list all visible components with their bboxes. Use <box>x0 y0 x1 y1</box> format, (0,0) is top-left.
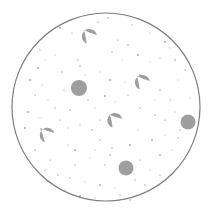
speckle-dot <box>144 184 146 186</box>
speckle-dot <box>74 149 76 151</box>
speckle-dot <box>121 59 122 60</box>
speckle-dot <box>69 109 71 111</box>
speckle-dot <box>189 97 190 98</box>
speckle-dot <box>154 99 155 100</box>
speckle-dot <box>139 159 140 160</box>
speckle-dot <box>179 129 180 130</box>
speckle-dot <box>34 94 35 95</box>
speckle-dot <box>24 127 26 129</box>
speckle-dot <box>177 137 178 138</box>
speckle-dot <box>174 59 176 61</box>
round-particle <box>119 161 134 176</box>
speckle-dot <box>57 174 59 176</box>
speckle-dot <box>84 181 85 182</box>
speckle-dot <box>109 79 111 81</box>
speckle-dot <box>114 101 115 102</box>
speckle-dot <box>159 89 161 91</box>
speckle-dot <box>94 197 95 198</box>
speckle-dot <box>119 194 120 195</box>
speckle-dot <box>71 32 72 33</box>
speckle-dot <box>99 139 100 140</box>
speckle-dot <box>34 149 36 151</box>
speckle-dot <box>134 179 135 180</box>
speckle-dot <box>44 169 45 170</box>
speckle-dot <box>129 144 131 146</box>
particle-diagram <box>0 0 208 215</box>
speckle-dot <box>54 54 55 55</box>
speckle-dot <box>109 154 111 156</box>
speckle-dot <box>89 157 90 158</box>
speckle-dot <box>94 149 95 150</box>
speckle-dot <box>74 164 75 165</box>
speckle-dot <box>117 39 118 40</box>
speckle-dot <box>127 44 129 46</box>
speckle-dot <box>79 124 80 125</box>
speckle-dot <box>164 134 165 135</box>
speckle-dot <box>104 164 105 165</box>
speckle-dot <box>37 67 39 69</box>
round-particle <box>71 80 87 96</box>
speckle-dot <box>151 139 153 141</box>
speckle-dot <box>91 129 93 131</box>
speckle-dot <box>77 59 78 60</box>
speckle-dot <box>61 71 63 73</box>
speckle-dot <box>171 149 172 150</box>
speckle-dot <box>174 111 175 112</box>
round-particle <box>181 115 196 130</box>
speckle-dot <box>154 114 156 116</box>
speckle-dot <box>44 59 45 60</box>
speckle-dot <box>97 21 98 22</box>
speckle-dot <box>111 147 113 149</box>
speckle-dot <box>169 99 170 100</box>
speckle-dot <box>63 89 64 90</box>
speckle-dot <box>64 189 65 190</box>
speckle-dot <box>47 99 48 100</box>
speckle-dot <box>124 81 125 82</box>
speckle-dot <box>41 84 42 85</box>
speckle-dot <box>49 159 50 160</box>
speckle-dot <box>149 169 150 170</box>
speckle-dot <box>159 154 161 156</box>
speckle-dot <box>169 47 170 48</box>
speckle-dot <box>79 65 81 67</box>
speckle-dot <box>127 94 128 95</box>
speckle-dot <box>104 95 106 97</box>
speckle-dot <box>59 119 60 120</box>
speckle-dot <box>159 174 160 175</box>
speckle-dot <box>164 41 166 43</box>
speckle-dot <box>107 17 109 19</box>
speckle-dot <box>84 74 85 75</box>
speckle-dot <box>129 199 131 201</box>
speckle-dot <box>131 24 132 25</box>
speckle-dot <box>177 79 178 80</box>
speckle-dot <box>54 107 55 108</box>
speckle-dot <box>99 119 100 120</box>
speckle-dot <box>99 71 100 72</box>
speckle-dot <box>139 107 140 108</box>
speckle-dot <box>111 51 112 52</box>
speckle-dot <box>137 54 139 56</box>
speckle-dot <box>114 187 115 188</box>
speckle-dot <box>39 117 40 118</box>
speckle-dot <box>99 184 101 186</box>
speckle-dot <box>137 129 138 130</box>
speckle-dot <box>29 79 31 81</box>
speckle-dot <box>87 99 88 100</box>
speckle-dot <box>27 111 29 113</box>
speckle-dot <box>67 127 68 128</box>
speckle-dot <box>149 61 150 62</box>
diagram-stage <box>0 0 208 215</box>
speckle-dot <box>69 177 70 178</box>
speckle-dot <box>39 49 40 50</box>
speckle-dot <box>164 119 165 120</box>
speckle-dot <box>79 195 81 197</box>
speckle-dot <box>94 107 95 108</box>
speckle-dot <box>59 27 61 29</box>
speckle-dot <box>184 69 185 70</box>
speckle-dot <box>67 144 68 145</box>
speckle-dot <box>149 32 150 33</box>
speckle-dot <box>159 57 160 58</box>
boundary-circle <box>12 13 200 201</box>
